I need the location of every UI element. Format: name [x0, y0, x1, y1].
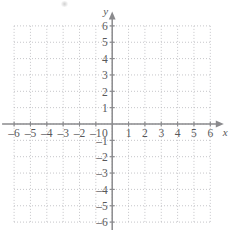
x-axis-tick-label: –4 [40, 127, 53, 139]
y-axis-tick-label: 1 [102, 102, 108, 114]
y-axis-tick-label: –3 [95, 167, 108, 179]
y-axis-tick-label: –2 [95, 151, 108, 163]
figure-background [0, 0, 234, 232]
coordinate-plane-figure: –6–5–4–3–2–1123456654321–1–2–3–4–5–60 xy [0, 0, 234, 232]
y-axis-tick-label: 5 [102, 36, 108, 48]
x-axis-tick-label: –5 [24, 127, 37, 139]
origin-label: 0 [102, 127, 108, 139]
y-axis-tick-label: –4 [95, 184, 108, 196]
x-axis-name-label: x [222, 126, 228, 138]
y-axis-tick-label: 3 [102, 69, 108, 81]
coordinate-plane-svg: –6–5–4–3–2–1123456654321–1–2–3–4–5–60 xy [0, 0, 234, 232]
y-axis-tick-label: 4 [102, 53, 108, 65]
y-axis-tick-label: –5 [95, 200, 108, 212]
x-axis-tick-label: 5 [191, 127, 197, 139]
scan-artifact-smudge [61, 1, 68, 7]
y-axis-tick-label: 2 [102, 86, 108, 98]
y-axis-tick-label: –6 [95, 216, 108, 228]
x-axis-tick-label: 3 [158, 127, 164, 139]
x-axis-tick-label: –2 [73, 127, 86, 139]
y-axis-name-label: y [102, 5, 108, 17]
x-axis-tick-label: 6 [207, 127, 213, 139]
y-axis-tick-label: 6 [102, 20, 108, 32]
x-axis-tick-label: 2 [142, 127, 148, 139]
x-axis-tick-label: 4 [175, 127, 181, 139]
x-axis-tick-label: 1 [126, 127, 132, 139]
x-axis-tick-label: –6 [7, 127, 20, 139]
x-axis-tick-label: –3 [56, 127, 69, 139]
